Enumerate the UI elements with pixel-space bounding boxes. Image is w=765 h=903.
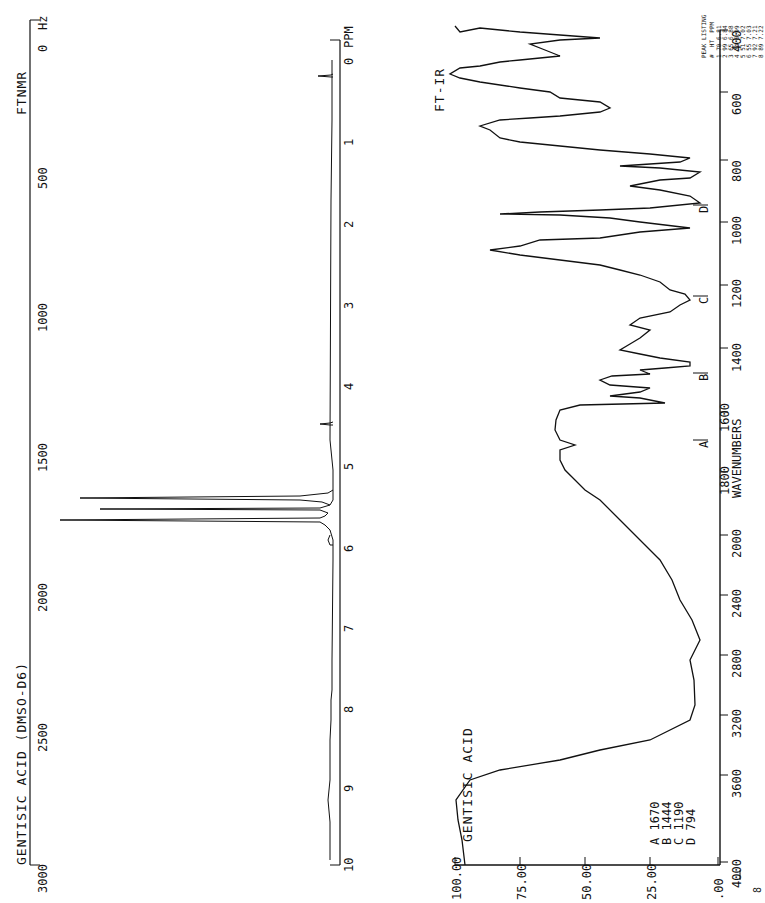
peak-row: 8 89 7.22 — [757, 25, 764, 58]
ppm-tick: 1 — [342, 139, 356, 146]
x-tick: 1000 — [730, 216, 744, 245]
hz-tick: 2500 — [36, 723, 50, 752]
ir-title: GENTISIC ACID — [460, 727, 475, 842]
hz-tick: 1000 — [36, 303, 50, 332]
hz-tick: 0 — [36, 45, 50, 52]
hz-tick: 3000 — [36, 864, 50, 893]
ppm-unit: PPM — [342, 26, 356, 48]
ir-spectrum — [450, 26, 700, 865]
peak-listing-header: # HT PPM — [708, 22, 715, 58]
hz-tick: 1500 — [36, 443, 50, 472]
y-tick: 50.00 — [580, 864, 594, 900]
ppm-tick: 3 — [342, 302, 356, 309]
hz-unit: Hz — [36, 16, 50, 30]
peak-listing-title: PEAK LISTING — [700, 15, 707, 58]
nmr-label: FTNMR — [14, 71, 29, 115]
ppm-tick: 5 — [342, 463, 356, 470]
ir-label: FT-IR — [432, 68, 447, 112]
x-tick: 800 — [730, 160, 744, 182]
ppm-tick: 8 — [342, 706, 356, 713]
spectra-canvas — [0, 0, 765, 903]
y-tick: 25.00 — [645, 864, 659, 900]
x-tick: 3200 — [730, 709, 744, 738]
ir-peak-markers — [693, 205, 708, 440]
page-number: 8 — [752, 887, 763, 893]
x-tick: 2000 — [730, 529, 744, 558]
ir-x-axis-label: WAVENUMBERS — [730, 419, 744, 498]
x-tick: 600 — [730, 93, 744, 115]
hz-tick: 500 — [36, 167, 50, 189]
y-tick: .00 — [712, 878, 726, 900]
ppm-tick: 6 — [342, 545, 356, 552]
ppm-tick: 9 — [342, 785, 356, 792]
ir-peak-entry: D 794 — [684, 809, 698, 845]
ppm-tick: 4 — [342, 383, 356, 390]
nmr-title: GENTISIC ACID (DMSO-D6) — [14, 662, 29, 865]
y-tick: 100.00 — [450, 857, 464, 900]
ppm-tick: 10 — [342, 858, 356, 872]
peak-letter-a: A — [697, 441, 711, 448]
hz-tick: 2000 — [36, 583, 50, 612]
x-tick: 1400 — [730, 343, 744, 372]
x-tick: 3600 — [730, 769, 744, 798]
ppm-tick: 7 — [342, 625, 356, 632]
ppm-tick: 2 — [342, 221, 356, 228]
ir-wavenumber-axis — [720, 30, 728, 865]
x-tick: 1200 — [730, 279, 744, 308]
x-tick: 400 — [730, 30, 744, 52]
y-tick: 75.00 — [515, 864, 529, 900]
nmr-spectrum — [60, 60, 333, 860]
ppm-tick: 0 — [342, 58, 356, 65]
x-tick: 2400 — [730, 589, 744, 618]
peak-letter-c: C — [697, 297, 711, 304]
x-tick: 2800 — [730, 649, 744, 678]
peak-letter-d: D — [697, 206, 711, 213]
x-tick: 4000 — [730, 859, 744, 888]
peak-letter-b: B — [697, 374, 711, 381]
